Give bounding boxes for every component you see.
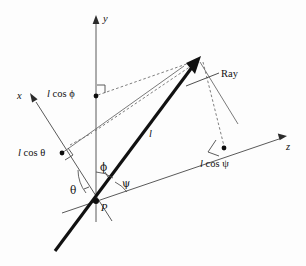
origin-label: P <box>100 202 108 213</box>
x-projection-point <box>60 151 65 156</box>
origin-point <box>93 198 99 204</box>
y-projection-point <box>94 94 99 99</box>
axis-z-arrowhead <box>278 133 287 140</box>
x-projection-label: l cos θ <box>18 147 45 158</box>
axis-x-arrowhead <box>30 93 38 103</box>
z-projection-label: l cos ψ <box>200 158 229 169</box>
angle-theta-label: θ <box>70 184 76 196</box>
angle-phi-label: ϕ <box>100 161 107 173</box>
axis-y-label: y <box>102 13 108 24</box>
z-projection-label-rest: cos ψ <box>203 158 229 169</box>
z-projection-right-angle <box>208 140 219 156</box>
lower-dashed-construction <box>95 62 197 131</box>
ray-length-label: l <box>149 128 152 139</box>
dashed-lower-to-tip <box>95 62 197 131</box>
x-projection-label-rest: cos θ <box>21 147 45 158</box>
figure-canvas: y x z <box>0 0 306 266</box>
angle-theta: θ <box>70 170 89 196</box>
axis-x-label: x <box>16 90 22 101</box>
x-projection-construction <box>62 66 184 153</box>
z-projection-point <box>222 146 227 151</box>
z-projection-marker <box>208 140 226 156</box>
angle-psi: ψ <box>115 177 130 192</box>
angle-theta-tick <box>84 187 89 189</box>
angle-psi-label: ψ <box>122 177 130 189</box>
y-projection-label-rest: cos ϕ <box>50 88 75 99</box>
ray-label: Ray <box>221 68 239 79</box>
direction-cosine-diagram: y x z <box>0 0 306 266</box>
y-projection-marker <box>94 85 105 98</box>
ray-line <box>55 66 193 251</box>
axis-z-label: z <box>285 141 290 152</box>
x-projection-helper-line <box>62 66 184 153</box>
y-projection-right-angle <box>97 85 105 93</box>
y-projection-label: l cos ϕ <box>47 88 75 99</box>
axis-y-arrowhead <box>93 15 100 24</box>
ray-callout-leader <box>186 73 219 86</box>
ray: l <box>55 56 201 251</box>
